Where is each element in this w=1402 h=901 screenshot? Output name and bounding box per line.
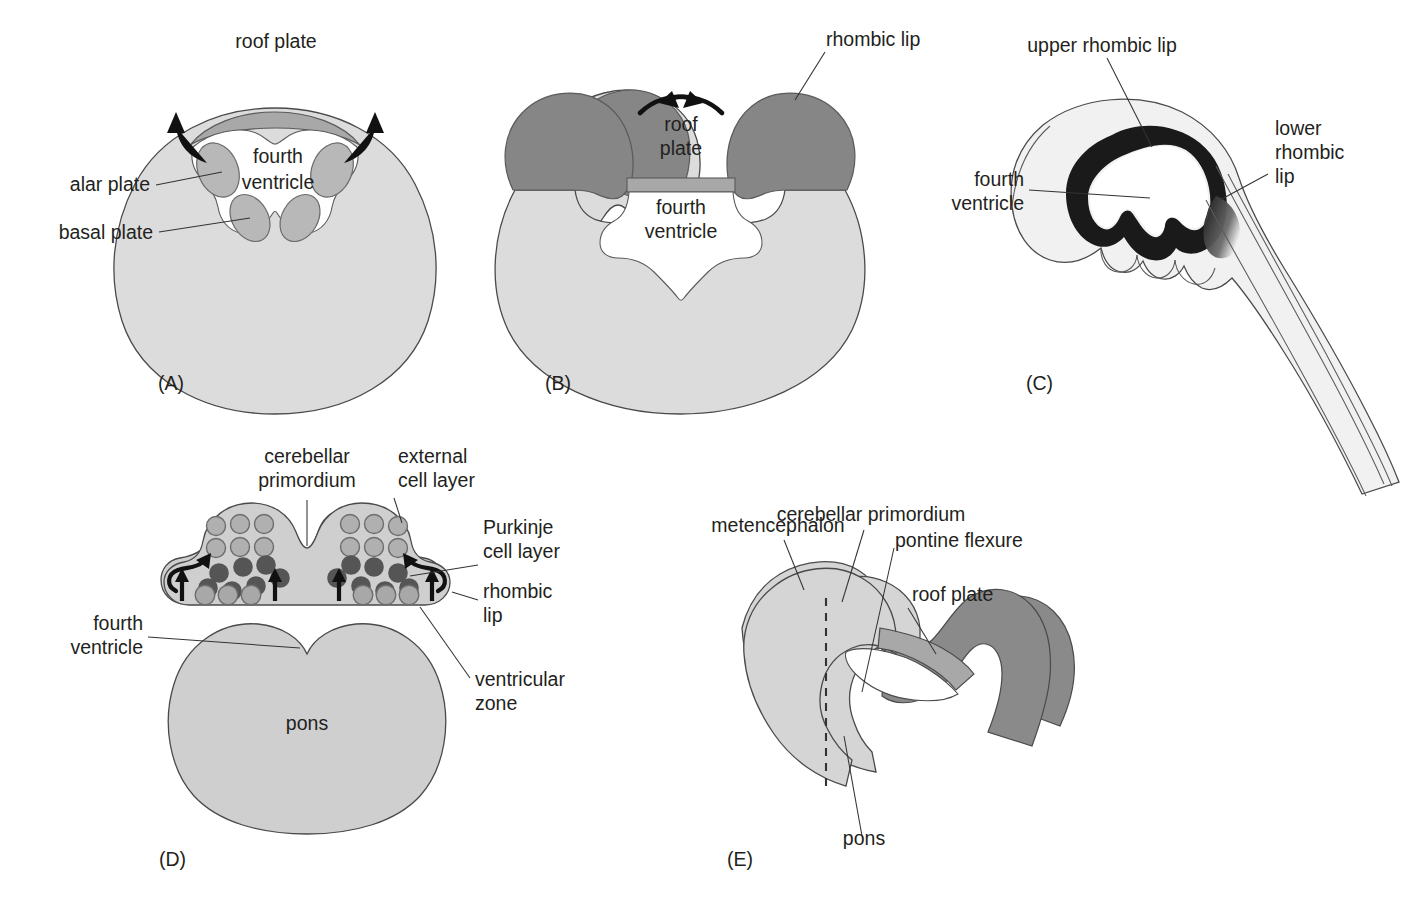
panel-b-label-roof-plate-2: plate [660, 137, 702, 159]
panel-c-label-fourth-ventricle-2: ventricle [951, 192, 1024, 214]
panel-d-letter: (D) [159, 848, 186, 870]
panel-d-label-rhombic-lip-2: lip [483, 604, 503, 626]
panel-e-label-cerebellar-primordium: cerebellar primordium [777, 503, 966, 525]
panel-d-label-ventricular-zone-1: ventricular [475, 668, 565, 690]
panel-a-label-fourth-ventricle-2: ventricle [242, 171, 315, 193]
panel-d-label-rhombic-lip-1: rhombic [483, 580, 553, 602]
panel-d-ventricular-zone-cells-left [195, 585, 261, 605]
panel-c-label-upper-rhombic-lip: upper rhombic lip [1027, 34, 1177, 56]
panel-e-label-roof-plate: roof plate [912, 583, 993, 605]
panel-a-label-alar-plate: alar plate [70, 173, 150, 195]
panel-a-label-roof-plate: roof plate [235, 30, 316, 52]
panel-e: metencephalon cerebellar primordium pont… [711, 503, 1074, 870]
panel-d-ventricular-zone-cells-right [353, 585, 419, 605]
panel-e-label-pontine-flexure: pontine flexure [895, 529, 1023, 551]
panel-d-label-cerebellar-primordium-1: cerebellar [264, 445, 350, 467]
panel-b-label-roof-plate-1: roof [664, 113, 698, 135]
panel-d-label-pons: pons [286, 712, 329, 734]
panel-c: upper rhombic lip lower rhombic lip four… [951, 34, 1399, 496]
panel-d-label-fourth-ventricle-1: fourth [93, 612, 143, 634]
panel-b-letter: (B) [545, 372, 571, 394]
panel-c-label-fourth-ventricle-1: fourth [974, 168, 1024, 190]
panel-a: roof plate fourth ventricle alar plate b… [59, 30, 436, 414]
panel-b-rhombic-lip-right-lobe [727, 93, 855, 199]
panel-d-label-fourth-ventricle-2: ventricle [70, 636, 143, 658]
panel-e-label-pons: pons [843, 827, 886, 849]
panel-c-label-lower-rhombic-lip-3: lip [1275, 165, 1295, 187]
panel-d-label-purkinje-cell-layer-2: cell layer [483, 540, 560, 562]
panel-d-label-purkinje-cell-layer-1: Purkinje [483, 516, 553, 538]
panel-d-label-ventricular-zone-2: zone [475, 692, 517, 714]
panel-b-label-fourth-ventricle-2: ventricle [645, 220, 718, 242]
anatomical-figure: roof plate fourth ventricle alar plate b… [0, 0, 1402, 901]
panel-d-label-external-cell-layer-2: cell layer [398, 469, 475, 491]
panel-e-letter: (E) [727, 848, 753, 870]
panel-d-leader-rhombic-lip [452, 592, 478, 600]
panel-d-label-external-cell-layer-1: external [398, 445, 467, 467]
figure-root: roof plate fourth ventricle alar plate b… [0, 0, 1402, 901]
panel-b: rhombic lip roof plate fourth ventricle … [495, 28, 920, 414]
panel-a-letter: (A) [158, 372, 184, 394]
panel-c-letter: (C) [1026, 372, 1053, 394]
panel-d: cerebellar primordium external cell laye… [70, 445, 565, 870]
panel-b-roof-plate-bar [627, 178, 735, 192]
panel-b-leader-rhombic-lip [795, 52, 825, 100]
panel-d-label-cerebellar-primordium-2: primordium [258, 469, 356, 491]
panel-b-label-fourth-ventricle-1: fourth [656, 196, 706, 218]
panel-c-label-lower-rhombic-lip-1: lower [1275, 117, 1322, 139]
panel-a-label-basal-plate: basal plate [59, 221, 153, 243]
panel-a-label-fourth-ventricle-1: fourth [253, 145, 303, 167]
panel-c-label-lower-rhombic-lip-2: rhombic [1275, 141, 1345, 163]
panel-b-label-rhombic-lip: rhombic lip [826, 28, 920, 50]
